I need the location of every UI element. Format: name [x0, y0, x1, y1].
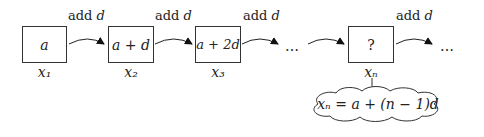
ellipsis-1: … [285, 38, 299, 54]
arrow-label-1: add d [68, 8, 105, 23]
ellipsis-2: … [440, 38, 454, 54]
label-x2: x₂ [108, 64, 154, 80]
label-xn: xₙ [348, 64, 394, 80]
formula-text: xₙ = a + (n − 1)d [308, 96, 448, 112]
arrow-label-4: add d [396, 8, 433, 23]
arrow-label-3: add d [243, 8, 280, 23]
box-xn: ? [348, 26, 394, 63]
box-x2: a + d [108, 26, 154, 63]
box-x3: a + 2d [195, 26, 241, 63]
arrow-label-2: add d [155, 8, 192, 23]
label-x3: x₃ [195, 64, 241, 80]
label-x1: x₁ [22, 64, 67, 80]
box-x1: a [22, 26, 67, 63]
